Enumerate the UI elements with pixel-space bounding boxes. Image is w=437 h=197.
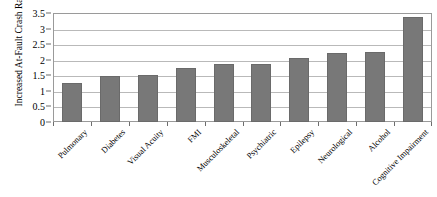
x-axis-tick bbox=[243, 122, 244, 126]
y-axis-tick bbox=[46, 13, 51, 14]
y-axis-tick-label: 0.5 bbox=[33, 101, 46, 112]
y-axis-tick bbox=[46, 90, 51, 91]
bar bbox=[100, 76, 120, 122]
x-axis-tick bbox=[318, 122, 319, 126]
bar-slot bbox=[280, 13, 318, 122]
y-axis-tick bbox=[46, 106, 51, 107]
bar bbox=[403, 17, 423, 122]
bar-slot bbox=[91, 13, 129, 122]
x-axis-tick bbox=[91, 122, 92, 126]
bar-chart: Increased At-Fault Crash Rate 00.511.522… bbox=[0, 0, 437, 197]
x-axis-tick-labels: PulmonaryDiabetesVisual AcuityFMIMusculo… bbox=[53, 127, 432, 197]
y-axis-tick-labels: 00.511.522.533.5 bbox=[0, 13, 51, 122]
x-axis-tick bbox=[356, 122, 357, 126]
bar-slot bbox=[53, 13, 91, 122]
bars-layer bbox=[53, 13, 432, 122]
bar-slot bbox=[356, 13, 394, 122]
bar bbox=[138, 75, 158, 122]
x-axis-tick bbox=[394, 122, 395, 126]
bar bbox=[176, 68, 196, 122]
bar-slot bbox=[129, 13, 167, 122]
y-axis-tick bbox=[46, 59, 51, 60]
x-axis-tick bbox=[129, 122, 130, 126]
y-axis-tick-label: 3 bbox=[40, 23, 45, 34]
bar-slot bbox=[167, 13, 205, 122]
y-axis-tick bbox=[46, 28, 51, 29]
bar bbox=[214, 64, 234, 122]
x-axis-tick-label: Pulmonary bbox=[56, 127, 89, 160]
x-axis-tick bbox=[205, 122, 206, 126]
bar-slot bbox=[205, 13, 243, 122]
bar bbox=[365, 52, 385, 122]
bar-slot bbox=[243, 13, 281, 122]
y-axis-tick-label: 1.5 bbox=[33, 70, 46, 81]
x-axis-tick-label: FMI bbox=[185, 127, 203, 145]
bar bbox=[289, 58, 309, 122]
y-axis-tick bbox=[46, 122, 51, 123]
x-axis-tick bbox=[167, 122, 168, 126]
x-axis-tick-label: Alcohol bbox=[366, 127, 392, 153]
y-axis-tick-label: 2 bbox=[40, 54, 45, 65]
y-axis-tick-label: 3.5 bbox=[33, 8, 46, 19]
bar-slot bbox=[394, 13, 432, 122]
x-axis-tick-label: Epilepsy bbox=[288, 127, 316, 155]
x-axis-tick bbox=[431, 122, 432, 126]
bar-slot bbox=[318, 13, 356, 122]
y-axis-tick-label: 2.5 bbox=[33, 39, 46, 50]
x-axis-tick-label: Diabetes bbox=[99, 127, 127, 155]
x-axis-tick bbox=[280, 122, 281, 126]
bar bbox=[251, 64, 271, 122]
bar bbox=[327, 53, 347, 122]
x-axis-tick bbox=[53, 122, 54, 126]
y-axis-tick bbox=[46, 44, 51, 45]
x-axis-tick-label: Psychiatric bbox=[245, 127, 279, 161]
x-axis-tick-label: Neurological bbox=[316, 127, 354, 165]
y-axis-tick bbox=[46, 75, 51, 76]
x-axis-tick-label: Visual Acuity bbox=[125, 127, 165, 167]
y-axis-tick-label: 1 bbox=[40, 85, 45, 96]
y-axis-tick-label: 0 bbox=[40, 117, 45, 128]
bar bbox=[62, 83, 82, 122]
